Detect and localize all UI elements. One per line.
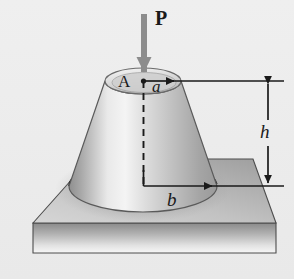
- label-top-radius-a: a: [152, 78, 161, 95]
- point-A-marker: [141, 78, 146, 83]
- label-point-A: A: [118, 73, 130, 90]
- label-height-h: h: [260, 122, 270, 141]
- mechanics-diagram-svg: [0, 0, 294, 279]
- label-bottom-radius-b: b: [167, 190, 177, 209]
- base-plate-front-face: [33, 223, 276, 253]
- label-load-P: P: [155, 8, 167, 28]
- figure-container: P A a h b: [0, 0, 294, 279]
